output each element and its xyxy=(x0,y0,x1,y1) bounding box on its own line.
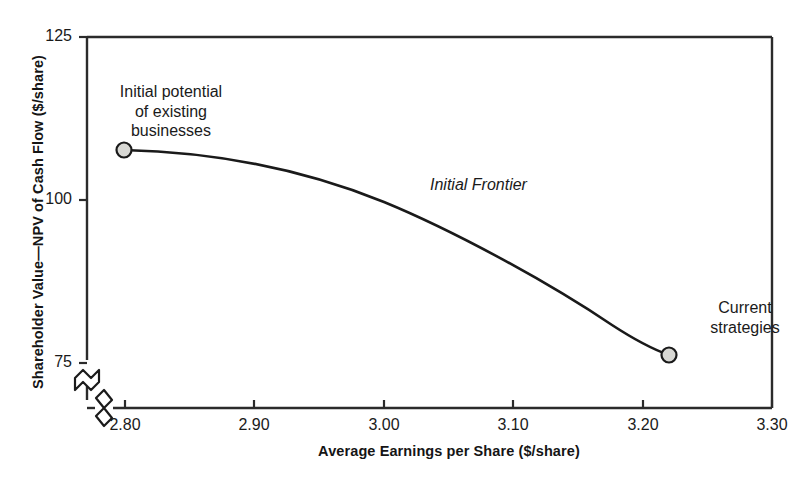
chart-figure: 125 100 75 2.80 2.90 3.00 3.10 3.20 3.30… xyxy=(0,0,807,481)
x-tick-label-3-20: 3.20 xyxy=(608,416,678,434)
plot-canvas xyxy=(0,0,807,481)
x-tick-label-3-00: 3.00 xyxy=(349,416,419,434)
x-tick-label-3-10: 3.10 xyxy=(478,416,548,434)
x-tick-label-2-80: 2.80 xyxy=(90,416,160,434)
marker-current-strategies xyxy=(662,348,677,363)
annotation-current-strategies: Current strategies xyxy=(690,298,800,337)
x-axis-title: Average Earnings per Share ($/share) xyxy=(125,443,773,459)
y-axis-title: Shareholder Value—NPV of Cash Flow ($/sh… xyxy=(30,32,46,412)
x-tick-label-3-30: 3.30 xyxy=(737,416,807,434)
annotation-initial-frontier: Initial Frontier xyxy=(430,175,620,195)
axis-break-y-icon xyxy=(75,370,99,390)
annotation-initial-potential: Initial potential of existing businesses xyxy=(96,82,246,141)
x-tick-label-2-90: 2.90 xyxy=(219,416,289,434)
marker-initial-potential xyxy=(117,143,132,158)
